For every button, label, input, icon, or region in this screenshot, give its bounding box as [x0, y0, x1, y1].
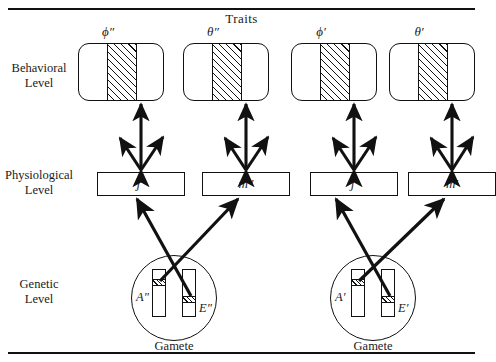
- trait-label-3: θ′: [389, 24, 449, 40]
- trait-box-0: [78, 43, 164, 101]
- physiological-label-2: j′: [311, 173, 397, 195]
- level-label-genetic-line1: Genetic: [2, 277, 76, 292]
- trait-label-1: θ″: [183, 24, 243, 40]
- gamete-caption-0: Gamete: [114, 339, 234, 354]
- chromosome-band-0-right: [182, 296, 196, 303]
- trait-band-0: [107, 43, 137, 101]
- chromosome-0-left: [152, 269, 166, 317]
- level-label-physiological-line1: Physiological: [2, 168, 76, 183]
- trait-box-1: [183, 43, 269, 101]
- chromosome-band-1-right: [381, 296, 395, 303]
- trait-label-0: ϕ″: [78, 24, 138, 40]
- trait-band-3: [418, 43, 448, 101]
- level-label-behavioral-line1: Behavioral: [2, 61, 76, 76]
- physiological-label-3: m′: [409, 173, 495, 195]
- level-label-genetic: Genetic Level: [2, 277, 76, 307]
- chromosome-1-left: [351, 269, 365, 317]
- allele-label-1-left: A′: [335, 290, 345, 305]
- trait-box-2: [291, 43, 377, 101]
- level-label-behavioral-line2: Level: [2, 76, 76, 91]
- physiological-box-2: j′: [310, 172, 398, 196]
- trait-label-2: ϕ′: [291, 24, 351, 40]
- physiological-label-1: m″: [203, 173, 289, 195]
- trait-band-1: [212, 43, 242, 101]
- level-label-physiological: Physiological Level: [2, 168, 76, 198]
- physiological-box-1: m″: [202, 172, 290, 196]
- trait-band-2: [320, 43, 350, 101]
- chromosome-band-0-left: [152, 279, 166, 286]
- level-label-physiological-line2: Level: [2, 183, 76, 198]
- allele-label-0-left: A″: [136, 290, 149, 305]
- level-label-genetic-line2: Level: [2, 292, 76, 307]
- allele-label-1-right: E′: [398, 301, 408, 316]
- top-rule: [8, 8, 475, 10]
- level-label-behavioral: Behavioral Level: [2, 61, 76, 91]
- gamete-caption-1: Gamete: [313, 339, 433, 354]
- physiological-box-3: m′: [408, 172, 496, 196]
- physiological-box-0: j″: [97, 172, 185, 196]
- chromosome-1-right: [381, 269, 395, 317]
- physiological-label-0: j″: [98, 173, 184, 195]
- chromosome-0-right: [182, 269, 196, 317]
- chromosome-band-1-left: [351, 279, 365, 286]
- trait-box-3: [389, 43, 475, 101]
- allele-label-0-right: E″: [199, 301, 212, 316]
